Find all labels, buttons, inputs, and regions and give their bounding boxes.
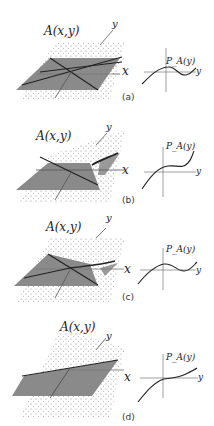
- surface-label: A(x,y): [46, 220, 81, 234]
- panel-d: A(x,y) y x P_A(y) y (d): [0, 308, 214, 426]
- y-axis-label: y: [106, 121, 112, 132]
- graph-y-label: y: [196, 166, 201, 176]
- graph-label: P_A(y): [166, 56, 195, 66]
- caption: (b): [122, 195, 135, 205]
- surface-label: A(x,y): [36, 129, 71, 143]
- graph-label: P_A(y): [166, 244, 195, 254]
- x-axis-label: x: [124, 370, 131, 384]
- x-axis-label: x: [124, 262, 131, 276]
- surface-label: A(x,y): [60, 320, 95, 334]
- y-axis-label: y: [112, 18, 118, 29]
- graph-label: P_A(y): [166, 141, 195, 151]
- graph-y-label: y: [196, 265, 201, 275]
- y-axis-label: y: [106, 330, 112, 341]
- graph-y-label: y: [196, 66, 201, 76]
- caption: (d): [122, 412, 135, 422]
- panel-b: A(x,y) y x P_A(y) y (b): [0, 105, 214, 208]
- graph-label: P_A(y): [166, 352, 195, 362]
- caption: (c): [122, 292, 134, 302]
- surface-label: A(x,y): [44, 24, 79, 38]
- panel-c: A(x,y) y x P_A(y) y (c): [0, 208, 214, 308]
- y-axis-label: y: [106, 212, 112, 223]
- surface-diagram-c: [0, 208, 214, 308]
- panel-a: A(x,y) y x P_A(y) y (a): [0, 0, 214, 106]
- graph-y-label: y: [198, 372, 203, 382]
- surface-diagram-d: [0, 308, 214, 426]
- x-axis-label: x: [122, 64, 129, 78]
- surface-diagram-a: [0, 0, 214, 106]
- x-axis-label: x: [122, 163, 129, 177]
- caption: (a): [122, 92, 135, 102]
